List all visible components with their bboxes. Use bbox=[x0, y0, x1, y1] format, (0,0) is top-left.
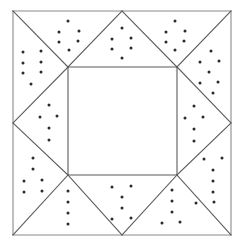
pattern-dot bbox=[41, 190, 44, 193]
pattern-dot bbox=[22, 51, 25, 54]
pattern-canvas bbox=[0, 0, 245, 247]
pattern-dot bbox=[171, 211, 174, 214]
pattern-dot bbox=[41, 179, 44, 182]
pattern-dot bbox=[68, 49, 71, 52]
pattern-dot bbox=[212, 92, 215, 95]
pattern-dot bbox=[121, 196, 124, 199]
pattern-dot bbox=[130, 185, 133, 188]
pattern-dot bbox=[208, 71, 211, 74]
pattern-dot bbox=[56, 115, 59, 118]
pattern-dot bbox=[179, 221, 182, 224]
pattern-dot bbox=[221, 157, 224, 160]
pattern-dot bbox=[165, 31, 168, 34]
pattern-dot bbox=[195, 202, 198, 205]
pattern-dot bbox=[202, 116, 205, 119]
pattern-dot bbox=[210, 50, 213, 53]
pattern-dot bbox=[23, 180, 26, 183]
pattern-dot bbox=[203, 158, 206, 161]
pattern-dot bbox=[130, 37, 133, 40]
pattern-dot bbox=[218, 60, 221, 63]
pattern-dot bbox=[67, 201, 70, 204]
pattern-dot bbox=[58, 31, 61, 34]
pattern-dot bbox=[22, 72, 25, 75]
pattern-dot bbox=[183, 40, 186, 43]
pattern-dot bbox=[130, 217, 133, 220]
quilt-block-figure bbox=[0, 0, 245, 247]
pattern-dot bbox=[165, 41, 168, 44]
pattern-dot bbox=[58, 41, 61, 44]
pattern-dot bbox=[184, 30, 187, 33]
pattern-dot bbox=[22, 62, 25, 65]
pattern-dot bbox=[67, 223, 70, 226]
pattern-dot bbox=[40, 61, 43, 64]
pattern-dot bbox=[111, 218, 114, 221]
pattern-dot bbox=[171, 189, 174, 192]
pattern-dot bbox=[111, 48, 114, 51]
pattern-dot bbox=[67, 20, 70, 23]
pattern-dot bbox=[184, 117, 187, 120]
pattern-dot bbox=[199, 82, 202, 85]
pattern-dot bbox=[121, 207, 124, 210]
pattern-dot bbox=[121, 57, 124, 60]
pattern-dot bbox=[193, 140, 196, 143]
pattern-dot bbox=[174, 49, 177, 52]
pattern-dot bbox=[23, 191, 26, 194]
pattern-dot bbox=[212, 180, 215, 183]
pattern-dot bbox=[111, 38, 114, 41]
pattern-dot bbox=[174, 20, 177, 23]
pattern-dot bbox=[171, 200, 174, 203]
pattern-dot bbox=[199, 61, 202, 64]
pattern-dot bbox=[32, 157, 35, 160]
pattern-dot bbox=[193, 105, 196, 108]
pattern-dot bbox=[213, 201, 216, 204]
pattern-dot bbox=[48, 139, 51, 142]
pattern-dot bbox=[212, 169, 215, 172]
pattern-dot bbox=[40, 71, 43, 74]
pattern-dot bbox=[161, 222, 164, 225]
pattern-dot bbox=[121, 27, 124, 30]
pattern-dot bbox=[193, 128, 196, 131]
pattern-dot bbox=[39, 116, 42, 119]
pattern-dot bbox=[67, 190, 70, 193]
pattern-dot bbox=[48, 127, 51, 130]
pattern-dot bbox=[32, 168, 35, 171]
pattern-dot bbox=[77, 40, 80, 43]
pattern-dot bbox=[130, 47, 133, 50]
pattern-dot bbox=[48, 104, 51, 107]
pattern-dot bbox=[78, 30, 81, 33]
pattern-dot bbox=[30, 83, 33, 86]
pattern-dot bbox=[40, 50, 43, 53]
pattern-dot bbox=[111, 186, 114, 189]
pattern-dot bbox=[217, 81, 220, 84]
pattern-dot bbox=[212, 191, 215, 194]
pattern-dot bbox=[67, 212, 70, 215]
